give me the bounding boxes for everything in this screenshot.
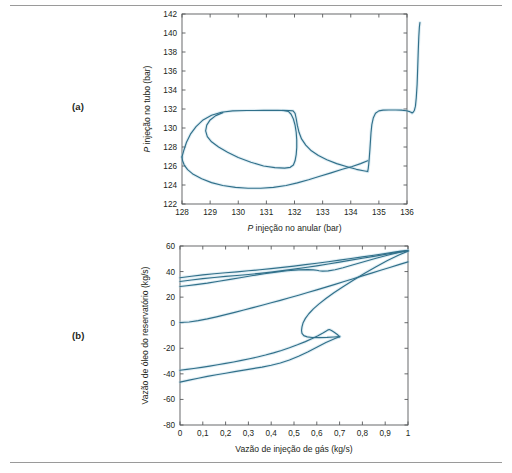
x-tick-label: 131: [260, 208, 274, 217]
y-tick-label: 122: [163, 200, 177, 209]
chart-panel-b: 00,10,20,30,40,50,60,70,80,91-80-60-40-2…: [132, 236, 422, 464]
y-tick-label: 40: [166, 268, 176, 277]
x-tick-label: 0,9: [380, 429, 392, 438]
y-tick-label: -60: [163, 395, 175, 404]
x-axis-title: P injeção no anular (bar): [247, 223, 341, 233]
x-tick-label: 0,1: [197, 429, 209, 438]
y-tick-label: 20: [166, 293, 176, 302]
panel-label-a: (a): [72, 101, 84, 112]
y-tick-label: 128: [163, 143, 177, 152]
y-axis-title: P injeção no tubo (bar): [142, 65, 152, 152]
x-tick-label: 0,8: [357, 429, 369, 438]
y-tick-label: 126: [163, 162, 177, 171]
y-tick-label: 132: [163, 105, 177, 114]
panel-label-b: (b): [72, 330, 85, 341]
x-tick-label: 0,3: [243, 429, 255, 438]
x-tick-label: 0,2: [220, 429, 232, 438]
x-tick-label: 134: [344, 208, 358, 217]
x-tick-label: 0,4: [266, 429, 278, 438]
x-tick-label: 0,6: [311, 429, 323, 438]
x-tick-label: 135: [372, 208, 386, 217]
chart-a-svg: 1281291301311321331341351361221241261281…: [132, 6, 422, 230]
y-tick-label: 136: [163, 67, 177, 76]
x-tick-label: 0,5: [288, 429, 300, 438]
y-tick-label: 142: [163, 10, 177, 19]
y-tick-label: 138: [163, 48, 177, 57]
x-tick-label: 130: [231, 208, 245, 217]
y-tick-label: 134: [163, 86, 177, 95]
y-tick-label: 0: [170, 319, 175, 328]
x-tick-label: 133: [316, 208, 330, 217]
x-axis-title: Vazão de injeção de gás (kg/s): [235, 444, 352, 454]
y-tick-label: -80: [163, 421, 175, 430]
y-tick-label: 60: [166, 242, 176, 251]
chart-panel-a: 1281291301311321331341351361221241261281…: [132, 6, 422, 230]
y-tick-label: 140: [163, 29, 177, 38]
y-tick-label: 124: [163, 181, 177, 190]
y-tick-label: -20: [163, 344, 175, 353]
figure-page: (a) (b) 12812913013113213313413513612212…: [0, 0, 512, 473]
y-axis-title: Vazão de óleo do reservatório (kg/s): [140, 266, 150, 404]
x-tick-label: 128: [175, 208, 189, 217]
plot-frame: [182, 14, 407, 204]
x-tick-label: 136: [400, 208, 414, 217]
x-tick-label: 1: [406, 429, 411, 438]
chart-b-svg: 00,10,20,30,40,50,60,70,80,91-80-60-40-2…: [132, 236, 422, 464]
y-tick-label: 130: [163, 124, 177, 133]
x-tick-label: 132: [288, 208, 302, 217]
x-tick-label: 0,7: [334, 429, 346, 438]
y-tick-label: -40: [163, 370, 175, 379]
x-tick-label: 0: [178, 429, 183, 438]
x-tick-label: 129: [203, 208, 217, 217]
